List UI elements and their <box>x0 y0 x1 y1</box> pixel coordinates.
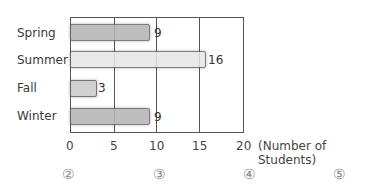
x-axis-line <box>70 132 244 133</box>
x-tick-20: 20 <box>236 139 251 153</box>
bar-summer <box>70 51 206 68</box>
bar-winter <box>70 108 150 125</box>
category-label-summer: Summer <box>17 53 68 67</box>
x-tick-10: 10 <box>149 139 164 153</box>
gridline-15 <box>199 17 200 133</box>
value-label-fall: 3 <box>98 81 106 95</box>
choice-4: ④ <box>243 166 256 182</box>
category-label-fall: Fall <box>17 81 37 95</box>
choice-5: ⑤ <box>333 166 346 182</box>
value-label-summer: 16 <box>208 53 223 67</box>
bar-fall <box>70 80 97 97</box>
choice-3: ③ <box>153 166 166 182</box>
bar-spring <box>70 24 150 41</box>
x-tick-5: 5 <box>110 139 118 153</box>
gridline-20 <box>243 17 244 133</box>
value-label-spring: 9 <box>154 26 162 40</box>
choice-2: ② <box>62 166 75 182</box>
x-tick-0: 0 <box>66 139 74 153</box>
x-axis-label: (Number of Students) <box>258 139 386 167</box>
plot-top-border <box>70 17 244 18</box>
x-tick-15: 15 <box>192 139 207 153</box>
category-label-spring: Spring <box>17 26 56 40</box>
category-label-winter: Winter <box>17 109 57 123</box>
value-label-winter: 9 <box>154 110 162 124</box>
